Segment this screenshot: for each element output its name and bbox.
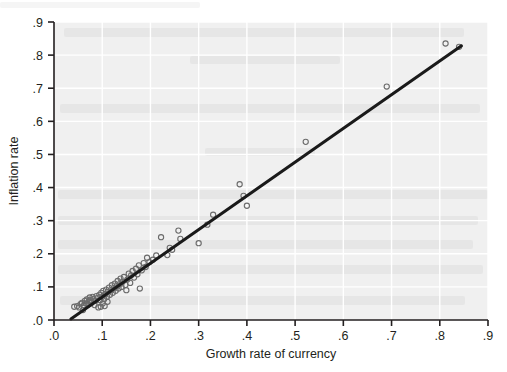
x-axis-tick-label: .9 xyxy=(483,329,493,343)
y-axis-tick-label: .8 xyxy=(33,49,43,63)
x-axis-tick-label: .4 xyxy=(242,329,252,343)
x-axis-tick-label: .0 xyxy=(49,329,59,343)
y-axis-tick-label: .9 xyxy=(33,16,43,30)
x-axis-tick-label: .1 xyxy=(97,329,107,343)
y-axis-title: Inflation rate xyxy=(7,137,21,206)
y-axis-tick-label: .4 xyxy=(33,181,43,195)
plot-panel-background xyxy=(54,22,488,320)
y-axis-tick-label: .7 xyxy=(33,82,43,96)
x-axis-tick-label: .3 xyxy=(193,329,203,343)
x-axis-tick-label: .2 xyxy=(145,329,155,343)
y-axis-tick-label: .3 xyxy=(33,214,43,228)
x-axis-tick-label: .8 xyxy=(435,329,445,343)
y-axis-tick-label: .5 xyxy=(33,148,43,162)
x-axis-tick-label: .6 xyxy=(338,329,348,343)
x-axis-tick-label: .7 xyxy=(386,329,396,343)
x-axis-tick-label: .5 xyxy=(290,329,300,343)
plot-canvas: .0.1.2.3.4.5.6.7.8.9 .0.1.2.3.4.5.6.7.8.… xyxy=(0,0,507,372)
y-axis-tick-label: .1 xyxy=(33,280,43,294)
x-axis-title: Growth rate of currency xyxy=(206,347,337,361)
y-axis-tick-label: .2 xyxy=(33,247,43,261)
y-axis-tick-label: .0 xyxy=(33,314,43,328)
scatter-plot-figure: .0.1.2.3.4.5.6.7.8.9 .0.1.2.3.4.5.6.7.8.… xyxy=(0,0,507,372)
y-axis-tick-label: .6 xyxy=(33,115,43,129)
